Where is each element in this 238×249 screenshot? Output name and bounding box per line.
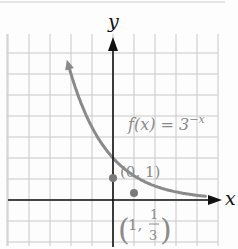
point-label-paren-close: ) bbox=[160, 212, 172, 247]
y-axis-label: y bbox=[107, 10, 119, 32]
fraction-denominator: 3 bbox=[149, 228, 157, 243]
x-axis-arrow-icon bbox=[208, 195, 222, 205]
graph-figure: y x f(x) = 3−x (0, 1) ( 1, 1 3 ) bbox=[0, 0, 238, 249]
graph-svg: y x f(x) = 3−x (0, 1) ( 1, 1 3 ) bbox=[0, 0, 238, 249]
fraction-numerator: 1 bbox=[150, 207, 158, 222]
function-label-main: f(x) = 3 bbox=[127, 115, 189, 134]
point-label-x-value: 1, bbox=[128, 216, 142, 234]
point-0-1 bbox=[109, 174, 117, 182]
function-label-exponent: −x bbox=[189, 113, 205, 126]
function-label: f(x) = 3−x bbox=[127, 113, 205, 134]
x-axis-label: x bbox=[225, 187, 236, 209]
curve-arrow-icon bbox=[65, 60, 74, 71]
y-axis-arrow-icon bbox=[108, 37, 118, 51]
point-label-0-1: (0, 1) bbox=[120, 163, 160, 181]
point-1-third bbox=[130, 189, 138, 197]
